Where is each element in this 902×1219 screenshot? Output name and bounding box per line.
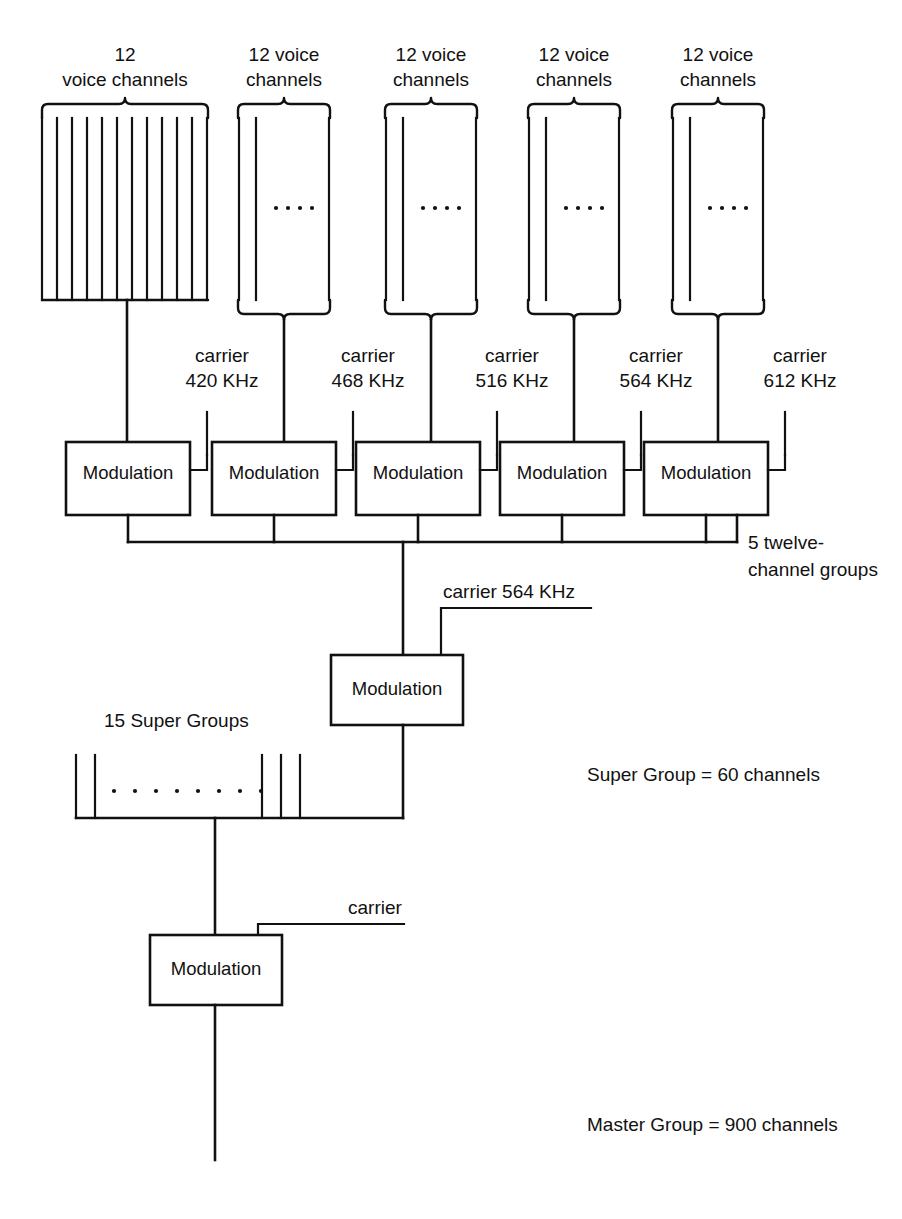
modulator-4-carrier-connector [624,455,641,470]
diagram-canvas: 12 voice channels [0,0,902,1219]
super-groups-ellipsis [112,789,263,793]
channel-group-5-bottom-brace [672,300,764,320]
channel-group-3-lines [386,118,476,300]
channel-group-2-top-brace [238,98,330,118]
channel-group-5-top-brace [672,98,764,118]
channel-group-4-top-brace [528,98,620,118]
carrier-label-4: carrier 564 KHz [620,345,693,455]
note-master-group: Master Group = 900 channels [587,1114,838,1135]
five-twelve-channel-groups-line2: channel groups [748,559,878,580]
stage3-carrier-label: carrier [348,897,403,918]
channel-group-5-label-line1: 12 voice [683,44,754,65]
modulator-2[interactable]: Modulation [212,442,353,542]
modulator-2-carrier-connector [336,455,353,470]
channel-group-3-bottom-brace [385,300,477,320]
carrier-3-line2: 516 KHz [476,370,549,391]
channel-group-2-bottom-brace [238,300,330,320]
modulator-5-label: Modulation [661,462,752,483]
stage3-carrier-lead [258,924,404,935]
channel-group-3-label-line2: channels [393,69,469,90]
super-groups-label: 15 Super Groups [104,710,249,731]
note-super-group: Super Group = 60 channels [587,764,820,785]
modulator-2-label: Modulation [229,462,320,483]
channel-group-5-ellipsis [708,206,748,210]
modulator-1-label: Modulation [83,462,174,483]
modulator-4-label: Modulation [517,462,608,483]
modulator-7[interactable]: Modulation [150,935,282,1160]
modulator-6[interactable]: Modulation [331,655,463,818]
channel-group-2-label-line1: 12 voice [249,44,320,65]
carrier-2-line2: 468 KHz [332,370,405,391]
channel-group-1: 12 voice channels [42,44,208,442]
carrier-label-3: carrier 516 KHz [476,345,549,455]
fdm-hierarchy-diagram: 12 voice channels [0,0,902,1219]
channel-group-1-label-line2: voice channels [62,69,188,90]
channel-group-1-label-line1: 12 [114,44,135,65]
channel-group-4-bottom-brace [528,300,620,320]
channel-group-1-lines [42,118,207,300]
channel-group-4-ellipsis [564,206,604,210]
channel-group-5-lines [673,118,763,300]
channel-group-3-ellipsis [421,206,461,210]
modulator-5-carrier-connector [768,455,785,470]
modulator-6-label: Modulation [352,678,443,699]
carrier-2-line1: carrier [341,345,396,366]
carrier-label-1: carrier 420 KHz [186,345,259,455]
carrier-1-line2: 420 KHz [186,370,259,391]
stage2-carrier-lead [441,608,591,655]
modulator-1-carrier-connector [190,455,207,470]
stage3-carrier: carrier [258,897,404,935]
carrier-1-line1: carrier [195,345,250,366]
channel-group-3-label-line1: 12 voice [396,44,467,65]
modulator-1[interactable]: Modulation [66,442,207,542]
channel-group-1-top-brace [42,98,208,118]
channel-group-2-ellipsis [274,206,314,210]
channel-group-4-label-line1: 12 voice [539,44,610,65]
carrier-label-2: carrier 468 KHz [332,345,405,455]
carrier-5-line1: carrier [773,345,828,366]
modulator-3[interactable]: Modulation [356,442,497,542]
modulator-4[interactable]: Modulation [500,442,641,542]
carrier-4-line2: 564 KHz [620,370,693,391]
channel-group-2-label-line2: channels [246,69,322,90]
stage2-carrier: carrier 564 KHz [441,581,591,655]
carrier-4-line1: carrier [629,345,684,366]
carrier-label-5: carrier 612 KHz [764,345,837,455]
modulator-7-label: Modulation [171,958,262,979]
stage2-carrier-label: carrier 564 KHz [443,581,575,602]
channel-group-2-lines [239,118,329,300]
modulator-5[interactable]: Modulation [644,442,785,542]
channel-group-4-lines [529,118,619,300]
channel-group-3-top-brace [385,98,477,118]
channel-group-4-label-line2: channels [536,69,612,90]
modulator-3-label: Modulation [373,462,464,483]
channel-group-5-label-line2: channels [680,69,756,90]
modulator-3-carrier-connector [480,455,497,470]
five-twelve-channel-groups-line1: 5 twelve- [748,532,824,553]
carrier-5-line2: 612 KHz [764,370,837,391]
carrier-3-line1: carrier [485,345,540,366]
